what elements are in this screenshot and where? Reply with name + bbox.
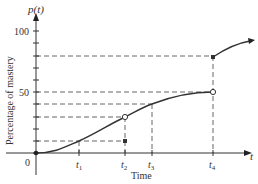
origin-dot — [34, 151, 39, 156]
open-circle-t2 — [122, 114, 127, 119]
curve-arrow-icon — [248, 38, 255, 44]
curve-piece-1 — [36, 92, 213, 153]
chart-container: p(t) t 100 50 0 t1 t2 t3 t4 Time Percent… — [0, 0, 258, 184]
x-tick-label-t1: t1 — [76, 159, 83, 172]
x-tick-label-t2: t2 — [121, 159, 128, 172]
chart-svg: p(t) t 100 50 0 t1 t2 t3 t4 Time Percent… — [0, 0, 258, 184]
filled-square-t2 — [123, 139, 127, 143]
curve-piece-2 — [213, 41, 250, 57]
x-axis-title: Time — [131, 170, 152, 181]
dashed-guides — [36, 56, 213, 153]
axes — [6, 20, 246, 175]
open-circle-t4 — [210, 89, 215, 94]
x-axis-symbol: t — [250, 150, 254, 162]
x-tick-label-t4: t4 — [209, 159, 216, 172]
y-axis-symbol: p(t) — [27, 3, 44, 16]
origin-label: 0 — [25, 157, 30, 168]
y-axis-title: Percentage of mastery — [4, 56, 15, 145]
y-tick-label-50: 50 — [19, 87, 29, 98]
y-tick-label-100: 100 — [14, 26, 29, 37]
filled-dot-t4 — [211, 55, 215, 59]
